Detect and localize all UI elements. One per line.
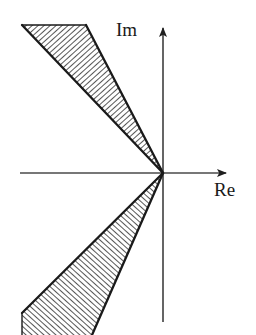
real-axis-label: Re	[214, 179, 235, 200]
complex-plane-figure: Im Re	[0, 0, 256, 335]
axes-group	[20, 28, 226, 322]
upper-sector	[22, 25, 163, 173]
lower-sector-fill	[22, 173, 163, 335]
imaginary-axis-label: Im	[116, 19, 137, 40]
lower-sector	[22, 173, 163, 335]
figure-canvas: Im Re	[0, 0, 256, 335]
